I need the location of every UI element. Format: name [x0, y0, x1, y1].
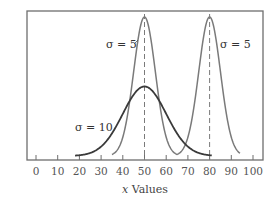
normal-distributions-chart: 0102030405060708090100 σ = 5 σ = 5 σ = 1…: [0, 0, 280, 204]
x-tick-label: 90: [225, 165, 238, 177]
x-tick-label: 70: [181, 165, 194, 177]
x-tick-label: 20: [73, 165, 86, 177]
density-curves: [75, 17, 240, 156]
x-axis-tick-labels: 0102030405060708090100: [33, 165, 263, 177]
x-axis-label-text: Values: [128, 183, 168, 196]
x-tick-label: 0: [33, 165, 40, 177]
annotation-sigma5-left: σ = 5: [106, 38, 137, 51]
x-axis-label: x Values: [122, 183, 168, 196]
x-tick-label: 10: [51, 165, 64, 177]
mean-reference-lines: [145, 14, 210, 160]
annotation-sigma10: σ = 10: [75, 121, 113, 134]
x-tick-label: 30: [94, 165, 107, 177]
x-tick-label: 60: [160, 165, 173, 177]
x-tick-label: 80: [203, 165, 216, 177]
x-tick-label: 50: [138, 165, 151, 177]
x-tick-label: 100: [243, 165, 263, 177]
x-tick-label: 40: [116, 165, 129, 177]
annotation-sigma5-right: σ = 5: [220, 38, 251, 51]
